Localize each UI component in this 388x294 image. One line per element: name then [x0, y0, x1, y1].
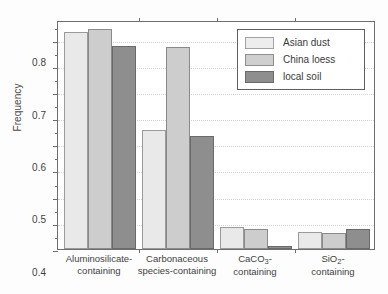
bar — [88, 29, 112, 249]
y-tick-label: 0.5 — [32, 214, 46, 225]
legend-item: Asian dust — [245, 35, 358, 50]
legend-swatch-asian-dust — [245, 37, 274, 49]
y-tick-minor — [55, 238, 58, 239]
y-tick: 0.8 — [53, 42, 58, 43]
y-tick-label: 0.7 — [32, 109, 46, 120]
bar — [268, 246, 292, 249]
x-label-line1: Aluminosilicate- — [66, 253, 133, 264]
y-tick: 0.7 — [53, 68, 58, 69]
bar — [64, 32, 88, 249]
y-tick-label: 0.6 — [32, 161, 46, 172]
bar — [112, 46, 136, 249]
bar-chart-figure: Frequency 0.00.10.20.30.40.50.60.70.8 Al… — [0, 0, 388, 294]
y-tick-minor — [55, 133, 58, 134]
x-label-line1: CaCO3- — [238, 253, 272, 264]
legend-item: local soil — [245, 69, 358, 84]
bar — [166, 47, 190, 249]
y-tick-label: 0.8 — [32, 57, 46, 68]
bar — [190, 136, 214, 249]
y-tick: 0.3 — [53, 172, 58, 173]
bar — [142, 130, 166, 249]
y-tick-label: 0.4 — [32, 266, 46, 277]
x-tick-top — [217, 18, 218, 22]
x-label-line1: Carbonaceous — [146, 253, 208, 264]
y-tick: 0.6 — [53, 94, 58, 95]
x-label-line1: SiO2- — [321, 253, 344, 264]
bar — [322, 233, 346, 249]
y-tick-minor — [55, 159, 58, 160]
y-tick: 0.4 — [53, 146, 58, 147]
bar — [244, 229, 268, 249]
y-axis-title: Frequency — [12, 53, 23, 163]
y-tick: 0.2 — [53, 199, 58, 200]
x-tick-top — [139, 18, 140, 22]
y-tick: 0.1 — [53, 225, 58, 226]
legend: Asian dust China loess local soil — [237, 29, 365, 90]
y-tick: 0.5 — [53, 120, 58, 121]
bar — [346, 229, 370, 249]
y-tick-minor — [55, 29, 58, 30]
legend-swatch-local-soil — [245, 71, 274, 83]
bar — [298, 232, 322, 249]
y-tick-minor — [55, 107, 58, 108]
y-tick-minor — [55, 212, 58, 213]
x-label-line2: containing — [283, 266, 383, 278]
legend-label: China loess — [283, 54, 335, 65]
y-tick: 0.0 — [53, 251, 58, 252]
legend-label: Asian dust — [283, 37, 330, 48]
y-tick-minor — [55, 55, 58, 56]
legend-item: China loess — [245, 52, 358, 67]
y-tick-minor — [55, 186, 58, 187]
y-tick-minor — [55, 81, 58, 82]
bar — [220, 227, 244, 249]
legend-label: local soil — [283, 71, 321, 82]
legend-swatch-china-loess — [245, 54, 274, 66]
x-tick-top — [295, 18, 296, 22]
x-axis-label: SiO2-containing — [283, 253, 383, 277]
